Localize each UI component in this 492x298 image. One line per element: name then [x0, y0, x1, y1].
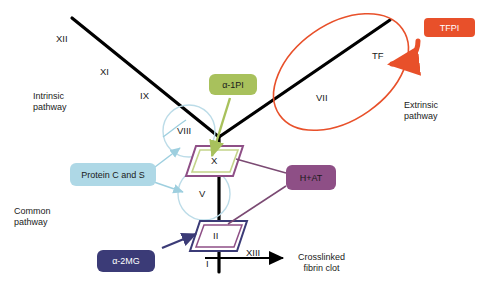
- common-pathway-label: Common pathway: [14, 206, 51, 228]
- factor-tf-label: TF: [372, 50, 384, 61]
- extrinsic-ellipse: [252, 0, 430, 154]
- coagulation-cascade-diagram: XII XI IX VIII X V II I XIII VII TF Intr…: [0, 0, 492, 298]
- factor-ix-label: IX: [140, 90, 149, 101]
- factor-ii-label: II: [213, 230, 218, 241]
- intrinsic-pathway-label: Intrinsic pathway: [33, 91, 67, 113]
- crosslinked-fibrin-clot-label: Crosslinked fibrin clot: [298, 252, 345, 274]
- hat-connector-ii: [228, 186, 286, 224]
- factor-xi-label: XI: [100, 66, 109, 77]
- factor-i-label: I: [206, 258, 209, 269]
- extrinsic-pathway-label: Extrinsic pathway: [404, 100, 438, 122]
- protein-cs-arrow-v: [151, 181, 183, 192]
- h-plus-at-box[interactable]: H+AT: [286, 165, 336, 190]
- factor-x-label: X: [211, 155, 217, 166]
- factor-v-label: V: [199, 188, 205, 199]
- hat-connector-x: [236, 159, 286, 173]
- alpha-1pi-box[interactable]: α-1PI: [209, 74, 257, 95]
- factor-vii-label: VII: [316, 92, 328, 103]
- factor-xii-label: XII: [56, 33, 68, 44]
- tfpi-arrow: [392, 41, 418, 64]
- alpha-2mg-box[interactable]: α-2MG: [97, 250, 155, 272]
- intrinsic-cascade-line: [72, 18, 219, 137]
- protein-c-and-s-box[interactable]: Protein C and S: [70, 163, 156, 186]
- tfpi-box[interactable]: TFPI: [424, 18, 475, 37]
- factor-viii-label: VIII: [177, 125, 191, 136]
- factor-xiii-label: XIII: [246, 247, 260, 258]
